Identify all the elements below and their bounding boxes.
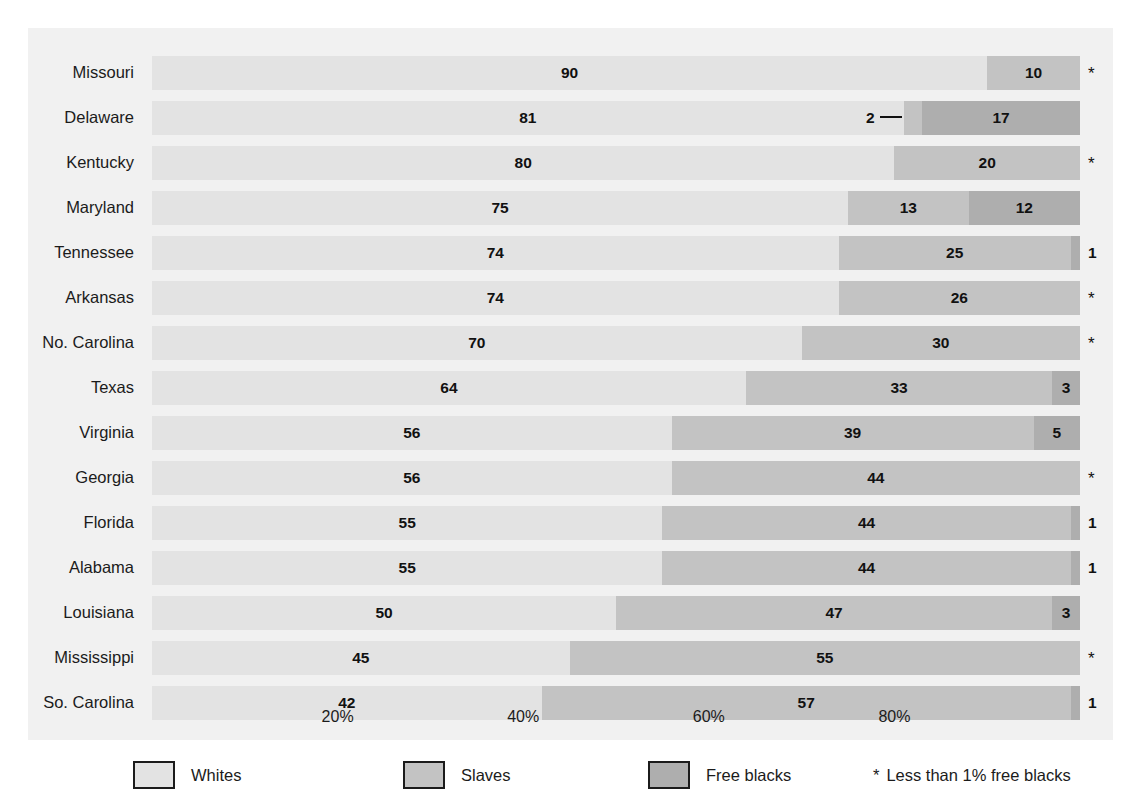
row-label-alabama: Alabama <box>28 545 134 590</box>
row-label-arkansas: Arkansas <box>28 275 134 320</box>
bar-segment-free-blacks: 17 <box>922 101 1080 135</box>
bar-segment-free-blacks: 12 <box>969 191 1080 225</box>
bar-segment-value: 55 <box>152 551 662 585</box>
bar-segment-whites: 74 <box>152 281 839 315</box>
bar-segment-value: 39 <box>672 416 1034 450</box>
legend-label: Slaves <box>461 766 511 785</box>
x-axis-tick-label: 40% <box>507 708 539 726</box>
bar-segment-whites: 80 <box>152 146 894 180</box>
table-row: Florida55441 <box>28 500 1113 545</box>
bar-segment-value: 5 <box>1034 416 1080 450</box>
bar-segment-value: 56 <box>152 416 672 450</box>
legend-footnote: *Less than 1% free blacks <box>873 758 1071 792</box>
bar-segment-value: 3 <box>1052 371 1080 405</box>
bar-segment-whites: 55 <box>152 506 662 540</box>
bar-segment-value: 33 <box>746 371 1052 405</box>
row-label-florida: Florida <box>28 500 134 545</box>
row-label-texas: Texas <box>28 365 134 410</box>
table-row: Tennessee74251 <box>28 230 1113 275</box>
bar-segment-whites: 50 <box>152 596 616 630</box>
bar-segment-slaves: 33 <box>746 371 1052 405</box>
bar-segment-value: 44 <box>672 461 1080 495</box>
bar-segment-free-blacks: 3 <box>1052 371 1080 405</box>
table-row: Virginia56395 <box>28 410 1113 455</box>
stacked-bar: 50473 <box>152 596 1080 630</box>
bar-segment-slaves: 44 <box>672 461 1080 495</box>
bar-segment-value: 70 <box>152 326 802 360</box>
legend-swatch-icon <box>403 761 445 789</box>
stacked-bar: 81217 <box>152 101 1080 135</box>
bar-segment-whites: 74 <box>152 236 839 270</box>
row-label-virginia: Virginia <box>28 410 134 455</box>
bar-segment-slaves: 30 <box>802 326 1080 360</box>
bar-segment-free-blacks: 3 <box>1052 596 1080 630</box>
row-label-missouri: Missouri <box>28 50 134 95</box>
legend-swatch-icon <box>133 761 175 789</box>
bar-segment-value: 12 <box>969 191 1080 225</box>
stacked-bar: 5544 <box>152 506 1080 540</box>
less-than-one-percent-star: * <box>1088 461 1113 495</box>
bar-segment-whites: 70 <box>152 326 802 360</box>
table-row: Missouri9010* <box>28 50 1113 95</box>
legend-label: Free blacks <box>706 766 791 785</box>
bar-segment-value: 44 <box>662 551 1070 585</box>
bar-segment-free-blacks <box>1071 551 1080 585</box>
row-label-louisiana: Louisiana <box>28 590 134 635</box>
table-row: Kentucky8020* <box>28 140 1113 185</box>
asterisk-icon: * <box>873 766 879 784</box>
bar-segment-whites: 45 <box>152 641 570 675</box>
bar-segment-whites: 64 <box>152 371 746 405</box>
bar-segment-value: 26 <box>839 281 1080 315</box>
bar-segment-value: 74 <box>152 281 839 315</box>
bar-segment-slaves: 25 <box>839 236 1071 270</box>
bar-segment-value: 74 <box>152 236 839 270</box>
bar-segment-value: 90 <box>152 56 987 90</box>
stacked-bar: 8020 <box>152 146 1080 180</box>
table-row: Texas64333 <box>28 365 1113 410</box>
legend-label: Whites <box>191 766 241 785</box>
bar-segment-whites: 75 <box>152 191 848 225</box>
stacked-bar: 7030 <box>152 326 1080 360</box>
bar-segment-whites: 81 <box>152 101 904 135</box>
stacked-bar: 56395 <box>152 416 1080 450</box>
bar-segment-value: 44 <box>662 506 1070 540</box>
legend-swatch-icon <box>648 761 690 789</box>
less-than-one-percent-star: * <box>1088 641 1113 675</box>
bar-segment-slaves: 26 <box>839 281 1080 315</box>
stacked-bar: 5644 <box>152 461 1080 495</box>
legend-item-whites[interactable]: Whites <box>133 758 241 792</box>
bar-segment-whites: 56 <box>152 416 672 450</box>
bar-segment-value: 25 <box>839 236 1071 270</box>
row-trailing-value: 1 <box>1088 686 1113 720</box>
bar-segment-free-blacks <box>1071 236 1080 270</box>
bar-segment-value: 56 <box>152 461 672 495</box>
legend-footnote-text: Less than 1% free blacks <box>886 766 1070 784</box>
stacked-bar: 7426 <box>152 281 1080 315</box>
row-label-mississippi: Mississippi <box>28 635 134 680</box>
bar-segment-value: 30 <box>802 326 1080 360</box>
bar-segment-slaves: 20 <box>894 146 1080 180</box>
less-than-one-percent-star: * <box>1088 146 1113 180</box>
bar-segment-value: 13 <box>848 191 969 225</box>
x-axis-tick-label: 20% <box>322 708 354 726</box>
stacked-bar: 5544 <box>152 551 1080 585</box>
bar-segment-slaves: 13 <box>848 191 969 225</box>
bar-segment-value: 50 <box>152 596 616 630</box>
x-axis-tick-label: 80% <box>878 708 910 726</box>
bar-segment-whites: 90 <box>152 56 987 90</box>
legend-item-slaves[interactable]: Slaves <box>403 758 511 792</box>
bar-segment-value: 75 <box>152 191 848 225</box>
row-trailing-value: 1 <box>1088 506 1113 540</box>
stacked-bar: 64333 <box>152 371 1080 405</box>
legend-item-free-blacks[interactable]: Free blacks <box>648 758 791 792</box>
row-label-delaware: Delaware <box>28 95 134 140</box>
chart-legend: WhitesSlavesFree blacks*Less than 1% fre… <box>28 758 1113 798</box>
less-than-one-percent-star: * <box>1088 326 1113 360</box>
bar-segment-value: 17 <box>922 101 1080 135</box>
table-row: Mississippi4555* <box>28 635 1113 680</box>
row-trailing-value: 1 <box>1088 551 1113 585</box>
bar-segment-value: 10 <box>987 56 1080 90</box>
bar-segment-value: 47 <box>616 596 1052 630</box>
bar-segment-slaves: 44 <box>662 506 1070 540</box>
bar-segment-slaves: 44 <box>662 551 1070 585</box>
